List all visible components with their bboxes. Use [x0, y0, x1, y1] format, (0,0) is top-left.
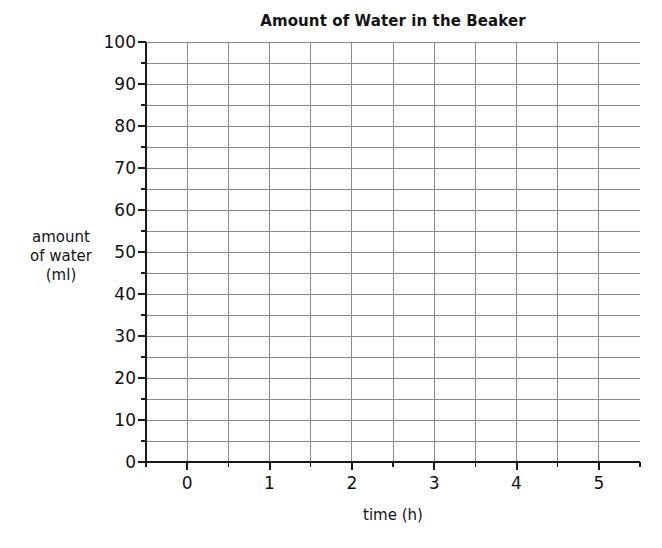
y-tick-label: 70 — [88, 160, 136, 177]
y-tick-label: 100 — [88, 34, 136, 51]
plot-area — [146, 42, 640, 462]
y-axis-label-line-3: (ml) — [12, 266, 110, 285]
y-tick-label: 10 — [88, 412, 136, 429]
y-tick-label: 30 — [88, 328, 136, 345]
x-tick-label: 0 — [162, 475, 212, 492]
chart-figure: Amount of Water in the Beaker 0102030405… — [0, 0, 662, 548]
x-axis-label: time (h) — [146, 506, 640, 524]
y-axis-label-line-1: amount — [12, 228, 110, 247]
x-tick-label: 5 — [574, 475, 624, 492]
x-tick-label: 4 — [492, 475, 542, 492]
chart-title: Amount of Water in the Beaker — [146, 12, 640, 30]
grid-lines — [146, 42, 640, 462]
y-axis-label: amount of water (ml) — [12, 228, 110, 286]
y-tick-label: 60 — [88, 202, 136, 219]
x-tick-label: 3 — [409, 475, 459, 492]
y-tick-label: 40 — [88, 286, 136, 303]
y-tick-label: 0 — [88, 454, 136, 471]
y-tick-label: 90 — [88, 76, 136, 93]
x-tick-label: 1 — [245, 475, 295, 492]
x-tick-label: 2 — [327, 475, 377, 492]
y-axis-label-line-2: of water — [12, 247, 110, 266]
y-tick-label: 20 — [88, 370, 136, 387]
y-tick-label: 80 — [88, 118, 136, 135]
